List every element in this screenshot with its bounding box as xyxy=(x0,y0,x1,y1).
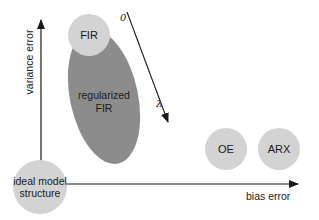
regularized-fir-label-1: regularized xyxy=(78,89,130,101)
regularized-fir-label-2: FIR xyxy=(96,102,113,114)
y-axis-label: variance error xyxy=(23,29,35,94)
oe-label: OE xyxy=(218,143,234,155)
ideal-model-label-1: ideal model xyxy=(13,175,67,187)
ideal-model-label-2: structure xyxy=(20,187,61,199)
x-axis-label: bias error xyxy=(246,190,291,202)
arx-label: ARX xyxy=(268,143,291,155)
arrow-end-label: λ xyxy=(155,98,162,109)
arrow-start-label: 0 xyxy=(120,12,127,23)
bias-variance-diagram: variance error bias error FIR regularize… xyxy=(0,0,319,220)
fir-label: FIR xyxy=(80,29,98,41)
